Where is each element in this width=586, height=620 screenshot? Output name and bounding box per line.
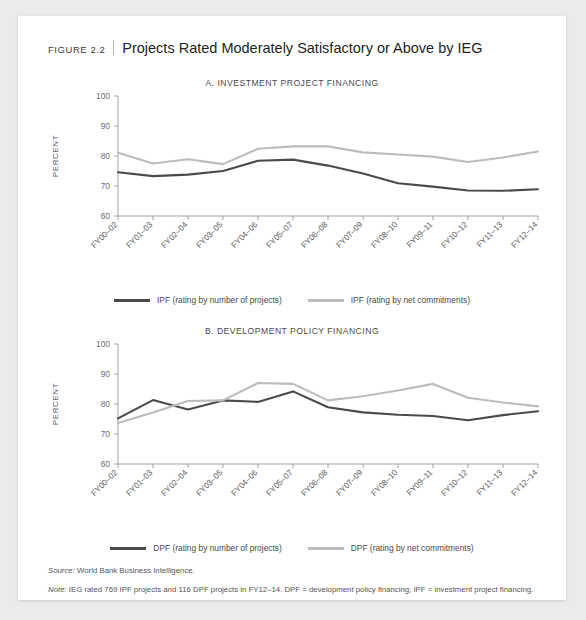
svg-text:FY09–11: FY09–11 — [405, 220, 435, 250]
figure-number: FIGURE 2.2 — [48, 44, 105, 55]
svg-text:60: 60 — [101, 211, 111, 221]
svg-text:70: 70 — [101, 181, 111, 191]
svg-text:FY01–03: FY01–03 — [125, 220, 155, 250]
svg-text:FY11–13: FY11–13 — [475, 220, 505, 250]
figure-divider — [113, 40, 114, 55]
svg-text:FY05–07: FY05–07 — [265, 468, 295, 498]
svg-text:FY04–06: FY04–06 — [230, 220, 260, 250]
legend-item: DPF (rating by number of projects) — [110, 543, 281, 553]
svg-text:FY06–08: FY06–08 — [300, 468, 330, 498]
chart-b-legend: DPF (rating by number of projects)DPF (r… — [18, 543, 566, 553]
svg-text:FY07–09: FY07–09 — [335, 220, 365, 250]
legend-label: DPF (rating by net commitments) — [351, 543, 474, 553]
svg-text:FY00–02: FY00–02 — [90, 220, 120, 250]
page-root: FIGURE 2.2 Projects Rated Moderately Sat… — [0, 0, 586, 620]
svg-text:100: 100 — [96, 91, 110, 101]
svg-text:FY10–12: FY10–12 — [440, 220, 470, 250]
svg-text:FY08–10: FY08–10 — [370, 468, 400, 498]
svg-text:FY11–13: FY11–13 — [475, 468, 505, 498]
legend-swatch-line-icon — [308, 547, 344, 550]
note-line: Note: IEG rated 769 IPF projects and 116… — [48, 585, 548, 596]
svg-text:FY08–10: FY08–10 — [370, 220, 400, 250]
svg-text:90: 90 — [101, 369, 111, 379]
svg-text:70: 70 — [101, 429, 111, 439]
svg-text:FY06–08: FY06–08 — [300, 220, 330, 250]
legend-item: IPF (rating by number of projects) — [114, 295, 282, 305]
source-text: World Bank Business Intelligence. — [75, 566, 195, 575]
svg-text:90: 90 — [101, 121, 111, 131]
svg-text:FY09–11: FY09–11 — [405, 468, 435, 498]
svg-text:FY10–12: FY10–12 — [440, 468, 470, 498]
source-line: Source: World Bank Business Intelligence… — [48, 566, 548, 577]
chart-a-plot: 60708090100FY00–02FY01–03FY02–04FY03–05F… — [18, 88, 566, 293]
legend-label: DPF (rating by number of projects) — [153, 543, 281, 553]
legend-label: IPF (rating by net commitments) — [351, 295, 470, 305]
page-title: Projects Rated Moderately Satisfactory o… — [122, 40, 482, 56]
svg-text:FY02–04: FY02–04 — [160, 220, 190, 250]
legend-swatch-line-icon — [114, 299, 150, 302]
svg-text:80: 80 — [101, 151, 111, 161]
legend-label: IPF (rating by number of projects) — [157, 295, 282, 305]
panel-b-title: B. DEVELOPMENT POLICY FINANCING — [18, 320, 566, 336]
svg-text:FY02–04: FY02–04 — [160, 468, 190, 498]
note-label: Note: — [48, 585, 67, 594]
figure-header: FIGURE 2.2 Projects Rated Moderately Sat… — [48, 38, 483, 56]
svg-text:100: 100 — [96, 339, 110, 349]
svg-text:PERCENT: PERCENT — [51, 135, 60, 177]
svg-text:PERCENT: PERCENT — [51, 383, 60, 425]
svg-text:60: 60 — [101, 459, 111, 469]
note-text: IEG rated 769 IPF projects and 116 DPF p… — [67, 585, 534, 594]
svg-text:FY12–14: FY12–14 — [510, 220, 540, 250]
svg-text:80: 80 — [101, 399, 111, 409]
chart-a-legend: IPF (rating by number of projects)IPF (r… — [18, 295, 566, 305]
panel-a-title: A. INVESTMENT PROJECT FINANCING — [18, 72, 566, 88]
svg-text:FY00–02: FY00–02 — [90, 468, 120, 498]
svg-text:FY04–06: FY04–06 — [230, 468, 260, 498]
figure-card: FIGURE 2.2 Projects Rated Moderately Sat… — [18, 16, 566, 600]
svg-text:FY03–05: FY03–05 — [195, 468, 225, 498]
svg-text:FY12–14: FY12–14 — [510, 468, 540, 498]
legend-item: IPF (rating by net commitments) — [308, 295, 470, 305]
legend-swatch-line-icon — [110, 547, 146, 550]
chart-b-plot: 60708090100FY00–02FY01–03FY02–04FY03–05F… — [18, 336, 566, 541]
chart-panel-a: A. INVESTMENT PROJECT FINANCING 60708090… — [18, 72, 566, 322]
svg-text:FY07–09: FY07–09 — [335, 468, 365, 498]
svg-text:FY03–05: FY03–05 — [195, 220, 225, 250]
svg-text:FY01–03: FY01–03 — [125, 468, 155, 498]
footnotes: Source: World Bank Business Intelligence… — [48, 566, 548, 603]
svg-text:FY05–07: FY05–07 — [265, 220, 295, 250]
legend-swatch-line-icon — [308, 299, 344, 302]
chart-panel-b: B. DEVELOPMENT POLICY FINANCING 60708090… — [18, 320, 566, 570]
source-label: Source: — [48, 566, 75, 575]
legend-item: DPF (rating by net commitments) — [308, 543, 474, 553]
